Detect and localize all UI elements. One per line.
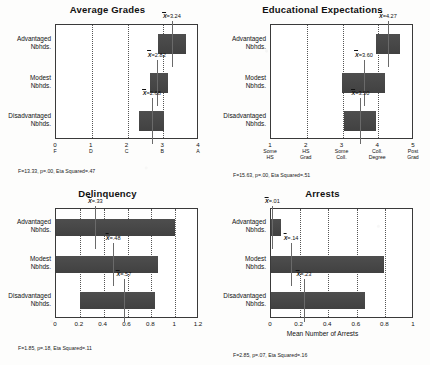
bar [271, 292, 365, 309]
panel-title: Arrests [215, 188, 430, 199]
category-label: AdvantagedNbhds. [2, 218, 51, 234]
x-axis-tick: 0 [268, 320, 271, 327]
mean-value-label: X=3.24 [163, 13, 181, 19]
panel-title: Delinquency [0, 188, 215, 199]
x-axis-tick: 0.4 [323, 320, 332, 327]
x-axis-tick: 1 [172, 320, 175, 327]
category-label: DisadvantagedNbhds. [2, 112, 51, 128]
mean-value-label: X=.48 [106, 235, 121, 241]
bar [80, 292, 155, 309]
mean-value-label: X=3.50 [351, 90, 369, 96]
bar [56, 256, 158, 273]
mean-value-label: X=.23 [296, 271, 311, 277]
x-axis-tick: 1D [89, 141, 93, 154]
mean-marker [124, 279, 125, 322]
category-label: AdvantagedNbhds. [217, 218, 266, 234]
mean-value-label: X=2.68 [143, 90, 161, 96]
x-axis-tick: 0 [53, 320, 56, 327]
x-axis-tick: 4A [196, 141, 199, 154]
mean-marker [113, 243, 114, 286]
mean-marker [304, 279, 305, 322]
x-axis-tick: 2HSGrad [300, 141, 312, 160]
x-axis-tick: 1SomeHS [263, 141, 277, 160]
plot-area: X=4.27X=3.60X=3.50 [270, 24, 413, 139]
x-axis-tick: 3SomeColl. [335, 141, 349, 160]
mean-marker [272, 206, 273, 249]
panel-title: Educational Expectations [215, 4, 430, 15]
mean-value-label: X=.01 [265, 198, 280, 204]
x-axis-tick: 0.4 [98, 320, 107, 327]
mean-marker [291, 243, 292, 286]
category-label: AdvantagedNbhds. [217, 35, 266, 51]
plot-area: X=3.24X=2.82X=2.68 [55, 24, 198, 139]
category-label: AdvantagedNbhds. [2, 35, 51, 51]
gridline [385, 209, 386, 317]
plot-area: X=.01X=.14X=.23 [270, 208, 413, 318]
mean-value-label: X=.57 [117, 271, 132, 277]
statistics-footnote: F=15.63, p=.00, Eta Squared=.51 [233, 172, 310, 178]
x-axis-tick: 0.8 [380, 320, 389, 327]
mean-marker [152, 98, 153, 144]
statistics-footnote: F=1.85, p=.18, Eta Squared=.11 [18, 345, 92, 351]
panel-arrests: ArrestsX=.01X=.14X=.23AdvantagedNbhds.Mo… [215, 182, 430, 365]
figure-panel-grid: Average GradesX=3.24X=2.82X=2.68Advantag… [0, 0, 430, 365]
panel-educational-expectations: Educational ExpectationsX=4.27X=3.60X=3.… [215, 0, 430, 182]
gridline [175, 209, 176, 317]
mean-marker [172, 21, 173, 67]
category-label: DisadvantagedNbhds. [217, 112, 266, 128]
x-axis-label: Mean Number of Arrests [215, 330, 430, 337]
category-label: ModestNbhds. [2, 74, 51, 90]
mean-value-label: X=4.27 [379, 13, 397, 19]
x-axis-tick: 1 [411, 320, 414, 327]
statistics-footnote: F=13.33, p=.00, Eta Squared=.47 [18, 168, 95, 174]
panel-average-grades: Average GradesX=3.24X=2.82X=2.68Advantag… [0, 0, 215, 182]
category-label: ModestNbhds. [217, 255, 266, 271]
gridline [307, 25, 308, 138]
bar [271, 256, 384, 273]
x-axis-tick: 3B [161, 141, 164, 154]
x-axis-tick: 4Coll.Degree [369, 141, 386, 160]
mean-marker [95, 206, 96, 249]
x-axis-tick: 0.6 [351, 320, 360, 327]
category-label: ModestNbhds. [2, 255, 51, 271]
plot-area: X=.33X=.48X=.57 [55, 208, 198, 318]
x-axis-tick: 0.6 [122, 320, 131, 327]
x-axis-tick: 0.8 [146, 320, 155, 327]
gridline [128, 25, 129, 138]
x-axis-tick: 2C [125, 141, 129, 154]
mean-marker [360, 98, 361, 144]
mean-value-label: X=.33 [88, 198, 103, 204]
bar [56, 219, 175, 236]
category-label: ModestNbhds. [217, 74, 266, 90]
category-label: DisadvantagedNbhds. [217, 292, 266, 308]
x-axis-tick: 0.2 [75, 320, 84, 327]
x-axis-tick: 5PostGrad [407, 141, 419, 160]
mean-marker [388, 21, 389, 67]
panel-delinquency: DelinquencyX=.33X=.48X=.57AdvantagedNbhd… [0, 182, 215, 365]
mean-marker [157, 60, 158, 106]
gridline [92, 25, 93, 138]
x-axis-tick: 0.2 [294, 320, 303, 327]
panel-title: Average Grades [0, 4, 215, 15]
mean-value-label: X=.14 [284, 235, 299, 241]
category-label: DisadvantagedNbhds. [2, 292, 51, 308]
mean-value-label: X=2.82 [148, 52, 166, 58]
x-axis-tick: 0F [53, 141, 56, 154]
mean-marker [364, 60, 365, 106]
x-axis-tick: 1.2 [194, 320, 203, 327]
mean-value-label: X=3.60 [355, 52, 373, 58]
statistics-footnote: F=2.85, p=.07, Eta Squared=.16 [233, 352, 307, 358]
